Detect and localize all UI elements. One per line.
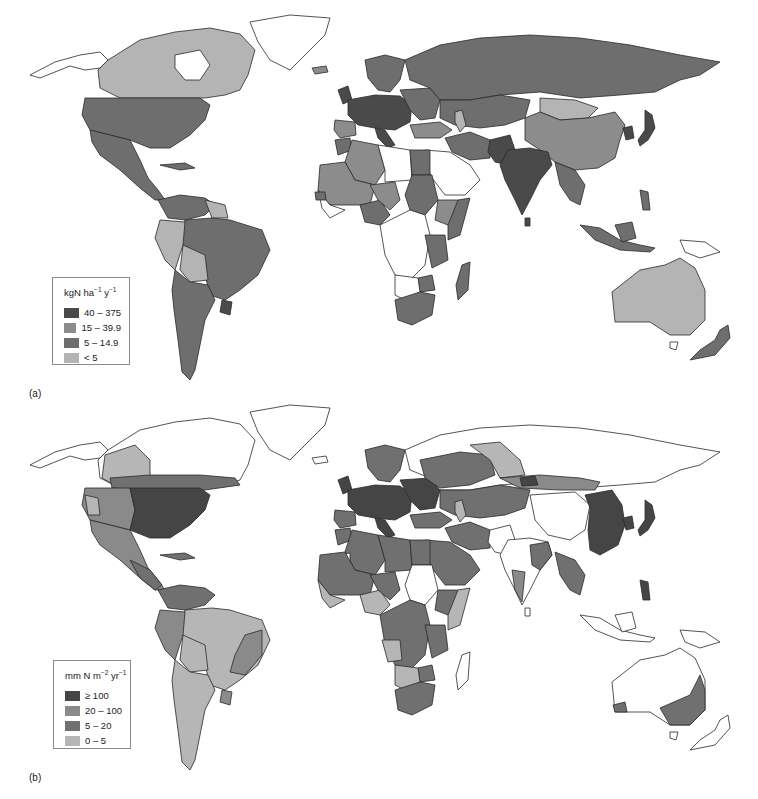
region-uruguay (220, 300, 232, 315)
region-libya (378, 535, 412, 572)
region-usa-west-low (85, 495, 100, 515)
legend-b-label-4: 0 – 5 (85, 735, 106, 746)
legend-a-swatch-1 (64, 308, 79, 318)
map-panel-a: kgN ha−1 y−1 40 – 375 15 – 39.9 5 – 14.9… (0, 0, 758, 395)
legend-a-row-2: 15 – 39.9 (61, 321, 121, 334)
legend-a-row-4: < 5 (61, 351, 121, 364)
region-srilanka (525, 608, 530, 616)
region-libya (378, 145, 412, 182)
region-papua (680, 630, 720, 648)
region-madagascar (456, 262, 470, 300)
region-argentina-chile (172, 660, 215, 770)
region-australia (612, 258, 705, 335)
legend-a-label-4: < 5 (84, 352, 97, 363)
region-caribbean (160, 163, 195, 170)
region-korea (623, 516, 634, 530)
region-east-africa (425, 625, 448, 658)
region-western-europe (348, 95, 412, 130)
region-papua (680, 240, 720, 258)
region-zimbabwe (418, 665, 435, 682)
region-philippines (640, 580, 650, 600)
region-scandinavia (365, 445, 405, 482)
legend-b: mm N m−2 yr−1 ≥ 100 20 – 100 5 – 20 0 – … (53, 660, 131, 749)
region-central-africa (380, 210, 430, 280)
region-colombia-venezuela (158, 585, 215, 610)
legend-b-row-1: ≥ 100 (62, 689, 122, 702)
legend-a-label-1: 40 – 375 (84, 307, 121, 318)
region-japan (638, 110, 655, 146)
legend-b-swatch-4 (65, 736, 80, 746)
legend-a-swatch-3 (64, 338, 79, 348)
region-tasmania (670, 342, 678, 350)
legend-title-a-sup1: −1 (94, 286, 101, 293)
legend-title-a: kgN ha−1 y−1 (64, 286, 121, 298)
region-india (500, 148, 552, 215)
legend-a-label-3: 5 – 14.9 (84, 337, 118, 348)
region-madagascar (456, 652, 470, 690)
region-new-zealand (690, 325, 730, 360)
region-colombia-venezuela (158, 195, 215, 220)
region-sudan (405, 175, 438, 215)
region-turkey (410, 512, 452, 528)
panel-label-b: (b) (29, 772, 41, 783)
region-caribbean (160, 553, 195, 560)
region-angola (382, 640, 402, 662)
legend-b-row-3: 5 – 20 (62, 719, 122, 732)
legend-title-a-base: kgN ha (64, 287, 94, 298)
legend-title-a-mid: y (102, 287, 109, 298)
region-korea (623, 126, 634, 140)
legend-title-b-mid: yr (108, 670, 119, 681)
legend-b-swatch-3 (65, 721, 80, 731)
legend-a-swatch-2 (64, 323, 76, 333)
region-greenland (250, 15, 330, 70)
region-usa-east (130, 488, 210, 538)
legend-title-b: mm N m−2 yr−1 (65, 669, 122, 681)
region-china-west (530, 492, 590, 540)
region-senegal (315, 192, 326, 200)
region-greenland (250, 405, 330, 460)
region-iceland (312, 456, 328, 464)
legend-title-b-base: mm N m (65, 670, 101, 681)
region-siberia-high (520, 476, 538, 486)
region-iberia (334, 510, 356, 528)
region-argentina-chile (172, 270, 215, 380)
legend-title-b-sup2: −1 (119, 669, 126, 676)
region-central-asia (440, 485, 530, 518)
region-japan (638, 500, 655, 536)
legend-b-label-2: 20 – 100 (85, 705, 122, 716)
region-india-east-mid (530, 542, 552, 570)
region-egypt (410, 540, 430, 565)
legend-b-label-3: 5 – 20 (85, 720, 111, 731)
region-central-asia (440, 95, 530, 128)
region-southeast-asia (555, 552, 585, 595)
region-alaska (30, 52, 108, 78)
region-tasmania (670, 732, 678, 740)
region-western-europe (348, 485, 412, 520)
region-new-zealand (690, 715, 730, 750)
region-uruguay (220, 690, 232, 705)
region-china-east (585, 490, 625, 555)
legend-a-swatch-4 (64, 353, 79, 363)
region-srilanka (525, 218, 530, 226)
region-russia (405, 35, 720, 100)
legend-title-a-sup2: −1 (109, 286, 116, 293)
region-iberia (334, 120, 356, 138)
region-turkey (410, 122, 452, 138)
region-zimbabwe (418, 275, 435, 292)
legend-b-row-4: 0 – 5 (62, 734, 122, 747)
region-sudan (405, 565, 438, 605)
legend-a-row-1: 40 – 375 (61, 306, 121, 319)
region-east-africa (425, 235, 448, 268)
region-iceland (312, 66, 328, 74)
region-egypt (410, 150, 430, 175)
region-philippines (640, 190, 650, 210)
region-scandinavia (365, 55, 405, 92)
region-alaska (30, 442, 108, 468)
legend-b-swatch-1 (65, 691, 80, 701)
region-guianas (205, 200, 228, 218)
legend-a: kgN ha−1 y−1 40 – 375 15 – 39.9 5 – 14.9… (52, 277, 130, 365)
legend-b-row-2: 20 – 100 (62, 704, 122, 717)
legend-a-row-3: 5 – 14.9 (61, 336, 121, 349)
map-panel-b: mm N m−2 yr−1 ≥ 100 20 – 100 5 – 20 0 – … (0, 390, 758, 790)
legend-b-swatch-2 (65, 706, 80, 716)
